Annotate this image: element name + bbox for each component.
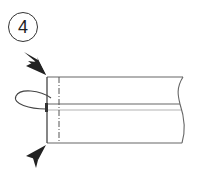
arrow-up-right-icon [26, 145, 46, 160]
loop-tab-icon [15, 91, 51, 112]
arrow-top-head [26, 60, 46, 75]
strip-outline [47, 77, 184, 143]
folding-diagram [0, 0, 197, 174]
